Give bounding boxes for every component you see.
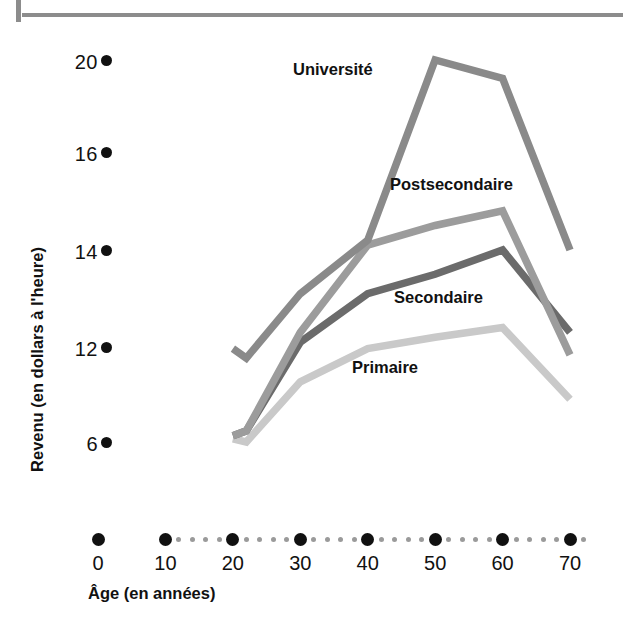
y-axis-tick-label: 6: [86, 431, 98, 457]
y-axis-tick-dot-icon: [101, 147, 112, 158]
y-axis-tick-6: 6: [54, 429, 112, 455]
series-label-secondaire: Secondaire: [394, 288, 483, 307]
y-axis-tick-dot-icon: [101, 55, 112, 66]
y-axis-tick-dot-icon: [101, 342, 112, 353]
y-axis-tick-label: 12: [75, 336, 98, 362]
series-label-postsecondaire: Postsecondaire: [390, 175, 513, 194]
chart-plot-area: [0, 0, 623, 623]
line-chart-figure: 201614126 Revenu (en dollars à l'heure) …: [0, 0, 623, 623]
y-axis-tick-dot-icon: [101, 245, 112, 256]
x-axis-tick-50: 50: [415, 552, 455, 575]
x-axis-tick-10: 10: [145, 552, 185, 575]
y-axis-tick-16: 16: [54, 139, 112, 165]
series-line-université: [233, 60, 570, 358]
x-axis-tick-40: 40: [348, 552, 388, 575]
y-axis-tick-12: 12: [54, 334, 112, 360]
series-label-primaire: Primaire: [352, 358, 418, 377]
x-axis-tick-70: 70: [550, 552, 590, 575]
y-axis-tick-dot-icon: [101, 437, 112, 448]
series-line-primaire: [233, 328, 570, 442]
y-axis-tick-label: 20: [75, 49, 98, 75]
series-label-université: Université: [293, 60, 373, 79]
x-axis-tick-60: 60: [483, 552, 523, 575]
x-axis-tick-20: 20: [213, 552, 253, 575]
y-axis-tick-20: 20: [54, 47, 112, 73]
y-axis-tick-label: 16: [75, 141, 98, 167]
y-axis-title: Revenu (en dollars à l'heure): [28, 230, 47, 490]
x-axis-tick-0: 0: [78, 552, 118, 575]
y-axis-tick-14: 14: [54, 237, 112, 263]
y-axis-tick-label: 14: [75, 239, 98, 265]
x-axis-title: Âge (en années): [88, 584, 215, 603]
x-axis-tick-30: 30: [280, 552, 320, 575]
